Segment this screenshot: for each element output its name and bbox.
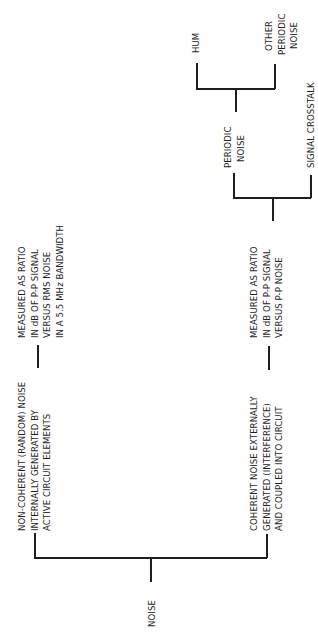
root-bracket-bar [34, 557, 267, 559]
label-line: IN dB OF P-P SIGNAL [29, 225, 42, 338]
label-line: MEASURED AS RATIO [16, 225, 29, 338]
periodic-subtypes-bar [196, 88, 275, 90]
label-line: AND COUPLED INTO CIRCUIT [273, 396, 286, 531]
label-line: PERIODIC [222, 127, 235, 168]
label-line: OTHER [263, 14, 276, 55]
hum-label: HUM [190, 33, 203, 53]
label-line: INTERNALLY GENERATED BY [29, 382, 42, 531]
coherent-measurement-label: MEASURED AS RATIO IN dB OF P-P SIGNAL VE… [248, 246, 286, 338]
label-line: SIGNAL CROSSTALK [305, 82, 318, 168]
periodic-noise-label: PERIODIC NOISE [222, 127, 247, 168]
coherent-subtypes-stem [272, 197, 274, 221]
coherent-subtypes-right-arm [310, 175, 312, 198]
other-periodic-noise-label: OTHER PERIODIC NOISE [263, 14, 301, 55]
label-line: HUM [190, 33, 203, 53]
label-line: PERIODIC [276, 14, 289, 55]
label-line: MEASURED AS RATIO [248, 246, 261, 338]
label-line: NOISE [288, 14, 301, 55]
label-line: VERSUS RMS NOISE [41, 225, 54, 338]
signal-crosstalk-label: SIGNAL CROSSTALK [305, 82, 318, 168]
periodic-subtypes-left-arm [196, 63, 198, 89]
periodic-subtypes-stem [235, 88, 237, 112]
label-line: NOISE [235, 127, 248, 168]
noise-classification-diagram: NOISE NON-COHERENT (RANDOM) NOISE INTERN… [0, 0, 318, 640]
root-stem [150, 557, 152, 582]
root-bracket-right-arm [266, 534, 268, 558]
root-bracket-left-arm [34, 533, 36, 558]
label-line: IN dB OF P-P SIGNAL [261, 246, 274, 338]
periodic-subtypes-right-arm [274, 64, 276, 89]
coherent-connector [268, 346, 270, 370]
non-coherent-connector [37, 345, 39, 368]
label-line: COHERENT NOISE EXTERNALLY [248, 396, 261, 531]
coherent-subtypes-left-arm [233, 173, 235, 198]
label-line: IN A 5.5 MHz BANDWIDTH [54, 225, 67, 338]
non-coherent-noise-label: NON-COHERENT (RANDOM) NOISE INTERNALLY G… [16, 382, 54, 531]
non-coherent-measurement-label: MEASURED AS RATIO IN dB OF P-P SIGNAL VE… [16, 225, 66, 338]
label-line: NON-COHERENT (RANDOM) NOISE [16, 382, 29, 531]
label-line: VERSUS P-P NOISE [273, 246, 286, 338]
root-label-noise: NOISE [146, 600, 159, 627]
label-line: ACTIVE CIRCUIT ELEMENTS [41, 382, 54, 531]
coherent-noise-label: COHERENT NOISE EXTERNALLY GENERATED (INT… [248, 396, 286, 531]
label-line: GENERATED (INTERFERENCE) [261, 396, 274, 531]
coherent-subtypes-bar [233, 197, 311, 199]
root-label-line: NOISE [146, 600, 159, 627]
